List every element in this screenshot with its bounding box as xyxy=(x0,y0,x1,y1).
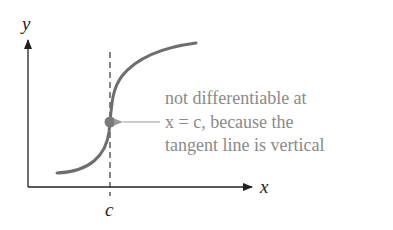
annotation-line-1: not differentiable at xyxy=(165,88,307,108)
x-axis-label: x xyxy=(259,176,269,197)
annotation-line-2: x = c, because the xyxy=(165,112,294,132)
y-axis-label: y xyxy=(20,13,31,34)
diagram-canvas: y x c not differentiable at x = c, becau… xyxy=(0,0,393,230)
point-at-c xyxy=(105,117,116,128)
tick-label-c: c xyxy=(105,199,114,220)
annotation-line-3: tangent line is vertical xyxy=(165,135,324,155)
